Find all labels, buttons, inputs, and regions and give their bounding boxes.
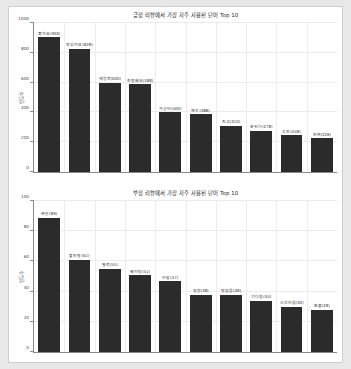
bar[interactable] [311, 138, 333, 172]
bar-value-label: 추천(248) [282, 128, 300, 134]
bar-group: 분위기(278) [246, 23, 276, 172]
y-axis-tick-label: 40 [24, 284, 29, 289]
y-axis-tick [30, 82, 34, 83]
bar-group: 비쌈(47) [155, 201, 185, 352]
bar-value-label: 만족(228) [313, 131, 331, 137]
axes-positive: 긍정 리뷰에서 가장 자주 사용된 단어 Top 10 빈도수 좋아요(903)… [33, 23, 337, 173]
y-axis-tick-label: 200 [21, 135, 29, 140]
bar[interactable] [99, 269, 121, 352]
bar-group: 불친절(61) [64, 201, 94, 352]
bar[interactable] [220, 295, 242, 352]
y-axis-tick-label: 600 [21, 75, 29, 80]
bar-value-label: 별로(55) [102, 261, 118, 267]
y-axis-tick [30, 141, 34, 142]
bar[interactable] [38, 218, 60, 352]
bar-group: 별로(55) [95, 201, 125, 352]
bar[interactable] [69, 260, 91, 352]
y-axis-tick-label: 1000 [18, 16, 29, 21]
y-axis-tick [30, 351, 34, 352]
bar-value-label: 기다림(34) [251, 293, 271, 299]
y-axis-label-positive: 빈도수 [18, 92, 24, 104]
bar-group: 친절해요(588) [125, 23, 155, 172]
bar-value-label: 시끄러움(30) [280, 299, 304, 305]
bar-value-label: 배달(89) [41, 210, 57, 216]
bar-group: 맛없음(38) [216, 201, 246, 352]
bar-value-label: 웨이팅(51) [130, 268, 150, 274]
bar[interactable] [129, 84, 151, 172]
y-axis-tick [30, 171, 34, 172]
bar-value-label: 분위기(278) [250, 123, 272, 129]
y-axis-tick-label: 800 [21, 45, 29, 50]
y-axis-tick [30, 260, 34, 261]
bar[interactable] [190, 295, 212, 352]
bar-value-label: 가성비(400) [159, 105, 181, 111]
chart-panel-positive: 긍정 리뷰에서 가장 자주 사용된 단어 Top 10 빈도수 좋아요(903)… [9, 9, 344, 185]
chart-title-positive: 긍정 리뷰에서 가장 자주 사용된 단어 Top 10 [34, 11, 337, 19]
figure-canvas: 긍정 리뷰에서 가장 자주 사용된 단어 Top 10 빈도수 좋아요(903)… [8, 6, 343, 363]
plot-area-positive: 좋아요(903)맛있어요(828)재방문(600)친절해요(588)가성비(40… [34, 23, 337, 172]
bar-group: 환불(28) [307, 201, 337, 352]
y-axis-tick-label: 400 [21, 105, 29, 110]
bar[interactable] [250, 301, 272, 352]
axes-negative: 부정 리뷰에서 가장 자주 사용된 단어 Top 10 빈도수 배달(89)불친… [33, 201, 337, 353]
bar[interactable] [129, 275, 151, 352]
bar-group: 웨이팅(51) [125, 201, 155, 352]
bar-value-label: 친절해요(588) [127, 77, 153, 83]
y-axis-tick [30, 200, 34, 201]
bar[interactable] [159, 281, 181, 352]
y-axis-tick [30, 230, 34, 231]
bar-group: 좋아요(903) [34, 23, 64, 172]
plot-area-negative: 배달(89)불친절(61)별로(55)웨이팅(51)비쌈(47)실망(38)맛없… [34, 201, 337, 352]
chart-panel-negative: 부정 리뷰에서 가장 자주 사용된 단어 Top 10 빈도수 배달(89)불친… [9, 185, 344, 362]
bar[interactable] [220, 126, 242, 172]
bar-group: 최고(310) [216, 23, 246, 172]
bar-group: 기다림(34) [246, 201, 276, 352]
y-axis-label-negative: 빈도수 [18, 271, 24, 283]
bar[interactable] [38, 37, 60, 172]
y-axis-tick-label: 60 [24, 254, 29, 259]
bar-value-label: 불친절(61) [69, 252, 89, 258]
y-axis-tick-label: 100 [21, 194, 29, 199]
y-axis-tick [30, 291, 34, 292]
bar-value-label: 재방문(600) [99, 75, 121, 81]
y-axis-tick-label: 0 [26, 165, 29, 170]
bar-group: 만족(228) [307, 23, 337, 172]
chart-title-negative: 부정 리뷰에서 가장 자주 사용된 단어 Top 10 [34, 189, 337, 197]
bar[interactable] [69, 49, 91, 172]
bar-group: 시끄러움(30) [276, 201, 306, 352]
bar-group: 깨끗(388) [186, 23, 216, 172]
bar-group: 추천(248) [276, 23, 306, 172]
y-axis-tick-label: 80 [24, 224, 29, 229]
bar-value-label: 실망(38) [193, 287, 209, 293]
bar[interactable] [159, 112, 181, 172]
bar[interactable] [281, 307, 303, 352]
bar-value-label: 최고(310) [222, 118, 240, 124]
bar-value-label: 비쌈(47) [162, 274, 178, 280]
bar-group: 재방문(600) [95, 23, 125, 172]
bar[interactable] [281, 135, 303, 172]
y-axis-tick [30, 111, 34, 112]
bar-value-label: 맛없음(38) [221, 287, 241, 293]
bar[interactable] [250, 131, 272, 172]
bar-group: 실망(38) [186, 201, 216, 352]
bar-group: 배달(89) [34, 201, 64, 352]
bar-group: 맛있어요(828) [64, 23, 94, 172]
bar[interactable] [311, 310, 333, 352]
bar[interactable] [190, 114, 212, 172]
bar-value-label: 깨끗(388) [191, 107, 209, 113]
bar-value-label: 좋아요(903) [38, 30, 60, 36]
y-axis-tick-label: 20 [24, 314, 29, 319]
bar-value-label: 환불(28) [314, 302, 330, 308]
bar-value-label: 맛있어요(828) [66, 41, 92, 47]
y-axis-tick [30, 22, 34, 23]
y-axis-tick [30, 52, 34, 53]
bar-group: 가성비(400) [155, 23, 185, 172]
bar[interactable] [99, 83, 121, 172]
y-axis-tick-label: 0 [26, 345, 29, 350]
y-axis-tick [30, 321, 34, 322]
